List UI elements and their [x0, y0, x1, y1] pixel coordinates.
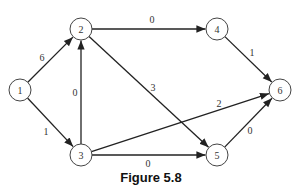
edge-weight-label: 1	[44, 126, 49, 137]
figure-caption: Figure 5.8	[0, 170, 302, 185]
node-label: 1	[18, 85, 23, 96]
node-label: 6	[278, 85, 283, 96]
graph-node-3: 3	[70, 144, 92, 166]
arrow-icon	[91, 94, 269, 152]
edge-weight-label: 1	[250, 47, 255, 58]
edge-weight-label: 0	[146, 158, 151, 169]
arrow-icon	[225, 37, 272, 82]
edge-2-to-5	[89, 36, 208, 147]
node-label: 4	[215, 24, 220, 35]
graph-node-4: 4	[206, 18, 228, 40]
edge-weight-label: 0	[150, 14, 155, 25]
graph-node-5: 5	[206, 144, 228, 166]
directed-graph: 610032010 123456	[0, 0, 302, 192]
edge-weight-label: 0	[73, 87, 78, 98]
arrow-icon	[89, 36, 208, 147]
edge-weight-label: 3	[151, 82, 156, 93]
edge-weight-label: 6	[40, 52, 45, 63]
edge-4-to-6	[225, 37, 272, 82]
edge-weight-label: 0	[248, 125, 253, 136]
arrow-icon	[28, 37, 73, 82]
node-label: 3	[79, 150, 84, 161]
node-label: 2	[79, 24, 84, 35]
graph-node-2: 2	[70, 18, 92, 40]
graph-node-6: 6	[269, 79, 291, 101]
edge-1-to-3	[28, 98, 74, 147]
edge-weight-label: 2	[217, 98, 222, 109]
arrow-icon	[28, 98, 74, 147]
edge-1-to-2	[28, 37, 73, 82]
edge-3-to-6	[91, 94, 269, 152]
graph-node-1: 1	[9, 79, 31, 101]
node-label: 5	[215, 150, 220, 161]
